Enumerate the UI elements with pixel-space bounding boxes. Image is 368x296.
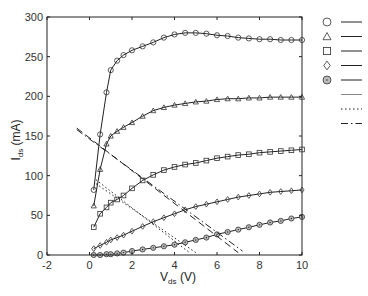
y-tick-label: 250 (25, 51, 43, 63)
legend-item (323, 18, 362, 26)
legend-item (323, 76, 362, 84)
y-tick-label: 150 (25, 130, 43, 142)
series-load-line-dashdot (77, 130, 243, 251)
axis-ticks: -20246810050100150200250300 (25, 11, 308, 271)
legend-item (323, 47, 362, 54)
y-tick-label: 0 (37, 249, 43, 261)
x-axis-label: Vds (V) (160, 270, 196, 286)
series-square (91, 147, 304, 229)
series-dotted-circle (91, 214, 304, 257)
x-tick-label: 2 (129, 259, 135, 271)
x-tick-label: 0 (86, 259, 92, 271)
series-circle (91, 30, 304, 192)
series-load-line-dashed-1 (77, 128, 239, 253)
y-tick-label: 300 (25, 11, 43, 23)
chart: -20246810050100150200250300 Vds (V) Ids … (0, 0, 368, 296)
legend-item (324, 61, 362, 70)
x-tick-label: 6 (214, 259, 220, 271)
x-tick-label: 8 (256, 259, 262, 271)
legend-item (323, 33, 362, 40)
x-tick-label: -2 (42, 259, 52, 271)
y-tick-label: 50 (31, 209, 43, 221)
legend (323, 18, 362, 124)
y-tick-label: 100 (25, 170, 43, 182)
y-axis-label: Ids (mA) (9, 119, 25, 160)
plot-area (77, 30, 305, 257)
x-tick-label: 10 (296, 259, 308, 271)
y-tick-label: 200 (25, 90, 43, 102)
